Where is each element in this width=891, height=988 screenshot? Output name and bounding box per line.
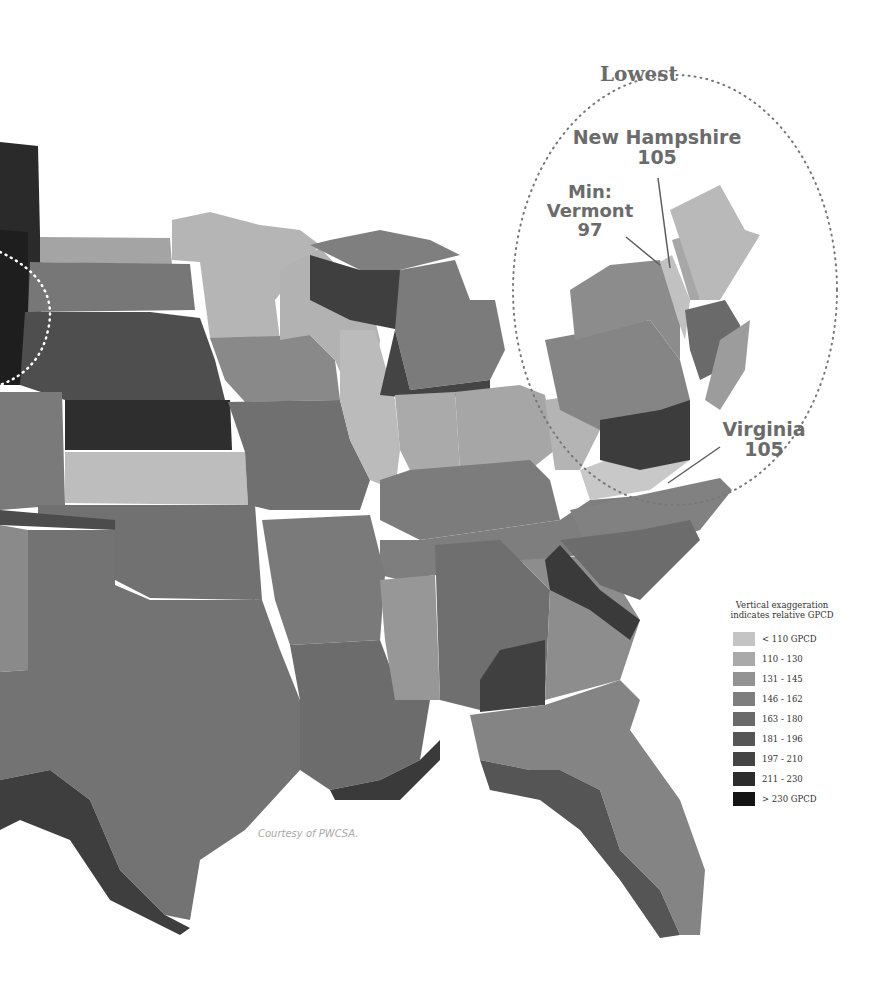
legend-title-line1: Vertical exaggeration (722, 600, 842, 610)
state-nebraska (20, 312, 225, 400)
legend-label: 146 - 162 (762, 694, 803, 704)
nh-leader-line (658, 178, 670, 268)
legend-title-line2: indicates relative GPCD (722, 610, 842, 620)
legend-title: Vertical exaggeration indicates relative… (722, 600, 842, 620)
state-arkansas (262, 515, 385, 645)
new-hampshire-annotation: New Hampshire 105 (572, 128, 742, 168)
state-new-mexico (0, 525, 28, 672)
legend-item: > 230 GPCD (733, 789, 882, 809)
credit-text: Courtesy of PWCSA. (258, 828, 358, 839)
state-ohio (455, 385, 555, 470)
va-value: 105 (716, 440, 812, 460)
legend-label: 131 - 145 (762, 674, 803, 684)
legend-label: 110 - 130 (762, 654, 803, 664)
vt-leader-line (626, 237, 660, 265)
legend-label: 197 - 210 (762, 754, 803, 764)
state-kansas (65, 452, 248, 505)
va-name: Virginia (716, 420, 812, 440)
legend-swatch (733, 652, 755, 666)
legend-swatch (733, 712, 755, 726)
legend: Vertical exaggeration indicates relative… (722, 600, 882, 809)
legend-label: 181 - 196 (762, 734, 803, 744)
vermont-annotation: Min: Vermont 97 (540, 183, 640, 240)
state-maine (670, 185, 760, 300)
lowest-callout-label: Lowest (600, 62, 678, 86)
state-indiana (395, 392, 460, 470)
nh-value: 105 (572, 148, 742, 168)
us-3d-map (0, 0, 891, 988)
legend-swatch (733, 752, 755, 766)
legend-swatch (733, 672, 755, 686)
legend-label: > 230 GPCD (762, 794, 817, 804)
legend-label: < 110 GPCD (762, 634, 817, 644)
legend-item: 181 - 196 (733, 729, 882, 749)
legend-item: < 110 GPCD (733, 629, 882, 649)
virginia-annotation: Virginia 105 (716, 420, 812, 460)
state-colorado (0, 392, 65, 510)
legend-item: 197 - 210 (733, 749, 882, 769)
legend-item: 163 - 180 (733, 709, 882, 729)
legend-label: 163 - 180 (762, 714, 803, 724)
legend-item: 131 - 145 (733, 669, 882, 689)
legend-swatch (733, 632, 755, 646)
vt-value: 97 (540, 221, 640, 240)
state-kansas-side (65, 400, 232, 450)
legend-item: 110 - 130 (733, 649, 882, 669)
state-north-dakota (40, 237, 172, 265)
state-south-dakota (28, 262, 195, 312)
vt-name: Vermont (540, 202, 640, 221)
legend-swatch (733, 732, 755, 746)
state-michigan (395, 260, 505, 390)
legend-swatch (733, 692, 755, 706)
legend-swatch (733, 792, 755, 806)
legend-item: 146 - 162 (733, 689, 882, 709)
legend-label: 211 - 230 (762, 774, 803, 784)
legend-swatch (733, 772, 755, 786)
legend-item: 211 - 230 (733, 769, 882, 789)
nh-name: New Hampshire (572, 128, 742, 148)
